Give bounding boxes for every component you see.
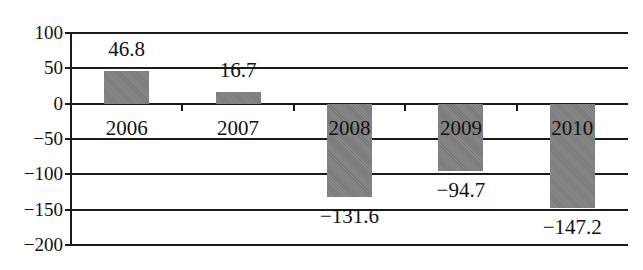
bar-chart: 100500−50−100−150−200200646.8200716.7200… [0, 0, 643, 270]
x-category-label: 2006 [82, 117, 172, 139]
data-label: −147.2 [522, 216, 622, 238]
data-label: 16.7 [188, 59, 288, 81]
y-axis [70, 33, 72, 246]
bar-2007 [216, 92, 261, 104]
y-tick-label: 50 [3, 58, 63, 78]
x-category-label: 2007 [193, 117, 283, 139]
gridline [71, 67, 628, 69]
x-tick [181, 105, 183, 111]
gridline [71, 244, 628, 246]
data-label: −131.6 [300, 205, 400, 227]
x-tick [516, 105, 518, 111]
x-tick [404, 105, 406, 111]
x-tick [293, 105, 295, 111]
x-category-label: 2008 [305, 117, 395, 139]
y-tick-label: −50 [3, 129, 63, 149]
y-tick-label: 100 [3, 23, 63, 43]
gridline [71, 32, 628, 34]
x-category-label: 2009 [416, 117, 506, 139]
bar-2006 [104, 71, 149, 104]
data-label: 46.8 [77, 38, 177, 60]
x-category-label: 2010 [527, 117, 617, 139]
data-label: −94.7 [411, 179, 511, 201]
y-tick-label: −100 [3, 164, 63, 184]
y-tick-label: 0 [3, 94, 63, 114]
y-tick-label: −200 [3, 235, 63, 255]
y-tick-label: −150 [3, 200, 63, 220]
